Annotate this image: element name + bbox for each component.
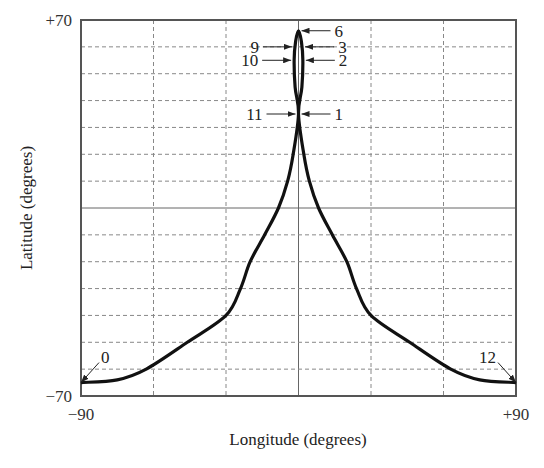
annotation-arrow bbox=[498, 363, 516, 383]
x-tick-right: +90 bbox=[503, 405, 530, 424]
y-tick-top: +70 bbox=[45, 11, 72, 30]
x-axis-title: Longitude (degrees) bbox=[229, 430, 366, 449]
annotation-arrow bbox=[81, 363, 99, 383]
annotation-label: 6 bbox=[335, 22, 344, 41]
annotation-label: 1 bbox=[335, 105, 344, 124]
x-tick-left: −90 bbox=[68, 405, 95, 424]
annotation-label: 10 bbox=[241, 51, 258, 70]
grid bbox=[81, 20, 516, 396]
annotation-label: 0 bbox=[101, 348, 110, 367]
y-axis-title: Latitude (degrees) bbox=[17, 146, 36, 270]
annotation-label: 11 bbox=[246, 105, 262, 124]
chart: 012369101112 +70 −70 −90 +90 Longitude (… bbox=[0, 0, 544, 468]
annotation-label: 12 bbox=[479, 348, 496, 367]
y-tick-bottom: −70 bbox=[45, 387, 72, 406]
